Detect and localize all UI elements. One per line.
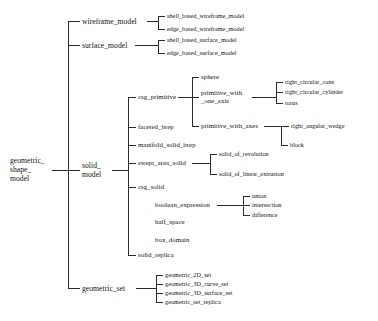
- edge-to-difference: [243, 215, 250, 216]
- node-swept-area-solid: swept_area_solid: [138, 159, 186, 167]
- edge-root-stem: [52, 170, 68, 171]
- edge-to-edge-based-wireframe: [158, 29, 165, 30]
- node-csg-primitive: csg_primitive: [138, 93, 176, 101]
- node-solid-replica: solid_replica: [138, 251, 174, 259]
- edge-primitive-one-axis-stem: [252, 97, 276, 98]
- primitive-one-axis-line-1: primitive_with: [201, 89, 242, 97]
- edge-primitive-axes-stem: [264, 126, 289, 127]
- edge-to-edge-based-surface: [158, 53, 165, 54]
- primitive-one-axis-line-2: _one_axis: [201, 97, 242, 105]
- node-right-circular-cylinder: right_circular_cylinder: [285, 88, 343, 96]
- node-solid-of-linear-extrusion: solid_of_linear_extrusion: [219, 170, 284, 178]
- edge-to-manifold-solid-brep: [128, 145, 136, 146]
- edge-to-geometric-set: [68, 288, 80, 289]
- edge-swept-area-stem: [192, 163, 210, 164]
- edge-csg-primitive-split: [192, 77, 193, 126]
- edge-to-solid-model: [68, 170, 80, 171]
- node-box-domain: box_domain: [155, 236, 189, 244]
- edge-to-shell-based-surface: [158, 40, 165, 41]
- node-solid-model: solid_ model: [82, 161, 101, 179]
- node-geometric-set: geometric_set: [82, 284, 125, 293]
- edge-to-block: [281, 145, 288, 146]
- root-label-line-1: geometric_: [10, 156, 45, 165]
- node-right-angular-wedge: right_angular_wedge: [291, 122, 345, 130]
- node-geometric-shape-model: geometric_ shape_ model: [10, 156, 45, 184]
- node-block: block: [290, 141, 304, 149]
- edge-to-wireframe-model: [68, 21, 80, 22]
- edge-geometric-set-split: [156, 275, 157, 302]
- edge-swept-area-split: [210, 154, 211, 174]
- node-edge-based-wireframe-model: edge_based_wireframe_model: [167, 25, 244, 33]
- node-shell-based-wireframe-model: shell_based_wireframe_model: [167, 12, 244, 20]
- edge-to-surface-model: [68, 45, 80, 46]
- edge-to-geometric-3d-curve-set: [156, 284, 163, 285]
- node-csg-solid: csg_solid: [138, 183, 164, 191]
- solid-model-label-line-2: model: [82, 170, 101, 179]
- edge-to-faceted-brep: [128, 127, 136, 128]
- node-solid-of-revolution: solid_of_revolution: [219, 150, 269, 158]
- edge-main-trunk: [68, 21, 69, 288]
- node-edge-based-surface-model: edge_based_surface_model: [167, 49, 237, 57]
- edge-surface-split: [158, 40, 159, 53]
- node-geometric-2d-set: geometric_2D_set: [165, 271, 211, 279]
- edge-surface-stem: [135, 45, 158, 46]
- edge-to-sphere: [192, 77, 199, 78]
- edge-to-geometric-set-replica: [156, 302, 163, 303]
- node-surface-model: surface_model: [82, 41, 127, 50]
- node-geometric-3d-surface-set: geometric_3D_surface_set: [165, 289, 233, 297]
- node-geometric-3d-curve-set: geometric_3D_curve_set: [165, 280, 228, 288]
- edge-to-union: [243, 196, 250, 197]
- node-primitive-with-axes: primitive_with_axes: [201, 122, 258, 130]
- edge-to-solid-replica: [128, 255, 136, 256]
- node-wireframe-model: wireframe_model: [82, 17, 137, 26]
- root-label-line-2: shape_: [10, 165, 45, 174]
- edge-to-solid-of-revolution: [210, 154, 217, 155]
- edge-csg-primitive-stem: [178, 97, 192, 98]
- edge-to-swept-area-solid: [128, 163, 136, 164]
- node-difference: difference: [252, 211, 277, 219]
- root-label-line-3: model: [10, 175, 45, 184]
- edge-to-primitive-with-axes: [192, 126, 199, 127]
- node-manifold-solid-brep: manifold_solid_brep: [138, 141, 196, 149]
- edge-to-geometric-3d-surface-set: [156, 293, 163, 294]
- edge-boolean-expression-stem: [217, 205, 243, 206]
- edge-to-intersection: [243, 205, 250, 206]
- edge-to-csg-primitive: [128, 97, 136, 98]
- edge-wireframe-split: [158, 16, 159, 29]
- edge-primitive-axes-split: [281, 126, 282, 145]
- taxonomy-tree-diagram: geometric_ shape_ model wireframe_model …: [0, 0, 378, 321]
- node-primitive-with-one-axis: primitive_with _one_axis: [201, 89, 242, 105]
- node-faceted-brep: faceted_brep: [138, 123, 174, 131]
- edge-to-right-circular-cone: [276, 82, 283, 83]
- edge-to-right-circular-cylinder: [276, 92, 283, 93]
- edge-geometric-set-stem: [136, 288, 156, 289]
- node-union: union: [252, 192, 266, 200]
- node-half-space: half_space: [155, 218, 185, 226]
- edge-solid-model-trunk: [128, 97, 129, 255]
- node-intersection: intersection: [252, 201, 281, 209]
- node-boolean-expression: boolean_expression: [155, 201, 210, 209]
- node-geometric-set-replica: geometric_set_replica: [165, 298, 221, 306]
- edge-to-csg-solid: [128, 187, 136, 188]
- edge-wireframe-stem: [147, 21, 158, 22]
- edge-to-torus: [276, 103, 283, 104]
- edge-to-primitive-with-one-axis: [192, 97, 199, 98]
- edge-solid-model-stem: [112, 170, 128, 171]
- node-torus: torus: [285, 99, 298, 107]
- edge-to-geometric-2d-set: [156, 275, 163, 276]
- edge-to-shell-based-wireframe: [158, 16, 165, 17]
- solid-model-label-line-1: solid_: [82, 161, 101, 170]
- edge-to-solid-of-linear-extrusion: [210, 174, 217, 175]
- node-shell-based-surface-model: shell_based_surface_model: [167, 36, 237, 44]
- node-right-circular-cone: right_circular_cone: [285, 78, 334, 86]
- node-sphere: sphere: [201, 73, 219, 81]
